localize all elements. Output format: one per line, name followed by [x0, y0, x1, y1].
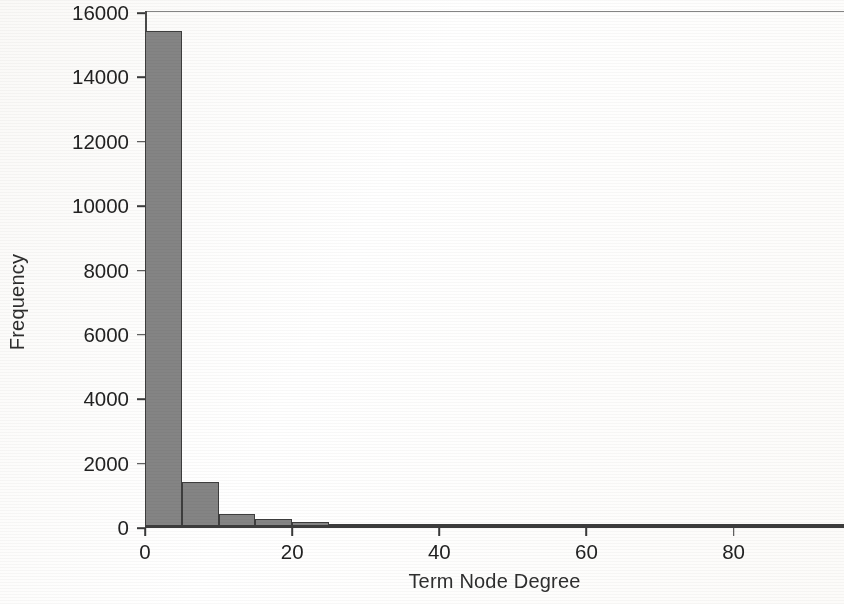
histogram-bar: [366, 524, 403, 526]
x-axis-tick-label: 80: [722, 542, 745, 563]
histogram-bar: [292, 522, 329, 527]
histogram-bars: [145, 11, 844, 526]
histogram-bar: [513, 524, 550, 526]
histogram-bar: [182, 482, 219, 526]
histogram-figure: Frequency 020004000600080001000012000140…: [0, 0, 844, 604]
y-axis-tick-label: 6000: [33, 325, 129, 346]
x-axis-tick-label: 20: [281, 542, 304, 563]
y-axis-tick-mark: [137, 12, 145, 14]
x-axis-tick-mark: [144, 528, 146, 536]
y-axis-tick-label: 2000: [33, 453, 129, 474]
y-axis-tick-mark: [137, 77, 145, 79]
x-axis-tick-mark: [291, 528, 293, 536]
y-axis-tick-label: 8000: [33, 260, 129, 281]
x-axis-tick-labels: 020406080: [145, 528, 844, 568]
x-axis-tick-mark: [733, 528, 735, 536]
histogram-bar: [623, 524, 660, 526]
y-axis-tick-label: 12000: [33, 132, 129, 153]
histogram-bar: [697, 524, 734, 526]
y-axis-tick-mark: [137, 270, 145, 272]
y-axis-tick-mark: [137, 141, 145, 143]
histogram-bar: [586, 524, 623, 526]
x-axis-tick-mark: [586, 528, 588, 536]
y-axis-tick-label: 0: [33, 518, 129, 539]
y-axis-tick-mark: [137, 205, 145, 207]
x-axis-tick-mark: [439, 528, 441, 536]
histogram-bar: [255, 519, 292, 527]
histogram-bar: [734, 524, 771, 526]
plot-area: [145, 11, 844, 528]
y-axis-tick-mark: [137, 463, 145, 465]
y-axis-tick-mark: [137, 398, 145, 400]
histogram-bar: [329, 524, 366, 527]
histogram-bar: [219, 514, 256, 526]
histogram-bar: [439, 524, 476, 526]
y-axis-tick-label: 10000: [33, 196, 129, 217]
x-axis-tick-label: 60: [575, 542, 598, 563]
x-axis-label: Term Node Degree: [145, 570, 844, 593]
y-axis-label: Frequency: [0, 0, 34, 604]
y-axis-tick-mark: [137, 334, 145, 336]
x-axis-tick-label: 0: [139, 542, 150, 563]
histogram-bar: [476, 524, 513, 526]
x-axis-tick-label: 40: [428, 542, 451, 563]
histogram-bar: [660, 524, 697, 526]
histogram-bar: [145, 31, 182, 527]
histogram-bar: [550, 524, 587, 526]
histogram-bar: [807, 524, 844, 526]
y-axis-tick-label: 4000: [33, 389, 129, 410]
histogram-bar: [403, 524, 440, 526]
histogram-bar: [770, 524, 807, 526]
y-axis-tick-label: 14000: [33, 67, 129, 88]
y-axis-tick-label: 16000: [33, 3, 129, 24]
